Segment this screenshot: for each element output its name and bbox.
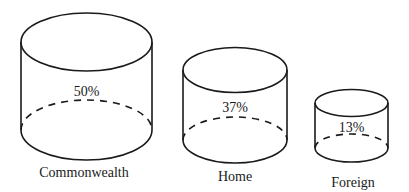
category-label: Foreign: [331, 175, 375, 190]
percentage-label: 50%: [74, 84, 100, 99]
cylinder-diagram: 50% Commonwealth 37% Home 13% Foreign: [0, 0, 409, 192]
cylinder-bottom-front-edge: [21, 130, 152, 160]
cylinder-bottom-back-edge: [21, 100, 152, 130]
cylinder-bottom-front-edge: [315, 148, 388, 162]
cylinder-commonwealth: 50% Commonwealth: [21, 13, 152, 180]
cylinder-foreign: 13% Foreign: [315, 90, 388, 191]
cylinder-top-face: [183, 48, 287, 93]
percentage-label: 37%: [222, 100, 248, 115]
cylinder-home: 37% Home: [183, 48, 287, 185]
cylinder-top-face: [315, 90, 388, 117]
cylinder-top-face: [21, 13, 152, 71]
cylinder-bottom-front-edge: [183, 140, 287, 163]
category-label: Commonwealth: [39, 165, 128, 180]
category-label: Home: [218, 169, 252, 184]
percentage-label: 13%: [339, 120, 365, 135]
cylinder-bottom-back-edge: [315, 134, 388, 148]
cylinder-bottom-back-edge: [183, 117, 287, 140]
